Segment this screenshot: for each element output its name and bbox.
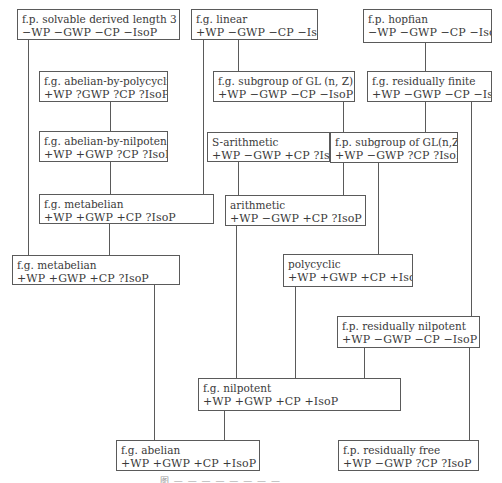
node-fg-nilpotent: f.g. nilpotent+WP +GWP +CP +IsoP [198, 378, 401, 411]
node-properties: +WP −GWP −CP −IsoP [218, 88, 354, 102]
node-fp-hopfian: f.p. hopfian−WP −GWP −CP −IsoP [363, 9, 492, 43]
node-properties: +WP −GWP −CP −IsoP [342, 333, 479, 347]
node-properties: +WP +GWP +CP +IsoP [121, 457, 259, 471]
edge-fg-residually-finite-to-fp-subgroup-gl [425, 102, 426, 132]
node-name: f.g. metabelian [17, 258, 179, 272]
node-s-arithmetic: S-arithmetic+WP −GWP +CP ?IsoP [207, 132, 330, 162]
edge-fp-solvable-dl3-to-fg-metabelian-2 [28, 40, 29, 255]
node-name: f.g. subgroup of GL (n, Z) [218, 74, 354, 88]
node-arithmetic: arithmetic+WP −GWP +CP ?IsoP [225, 195, 366, 226]
node-name: f.p. residually free [343, 443, 478, 457]
edge-fp-residually-nilpotent-to-fg-nilpotent [364, 348, 365, 378]
node-name: f.g. linear [196, 12, 317, 26]
edge-fp-subgroup-gl-to-arithmetic [343, 163, 344, 195]
node-name: f.g. residually finite [372, 74, 491, 88]
edge-fg-abelian-by-polycyclic-to-fg-abelian-by-nilpoten [110, 102, 111, 131]
node-properties: +WP −GWP −CP −IsoP [196, 26, 317, 40]
node-name: f.p. solvable derived length 3 [22, 12, 179, 26]
node-fg-metabelian-2: f.g. metabelian+WP +GWP +CP ?IsoP [12, 255, 180, 285]
node-name: polycyclic [288, 257, 412, 271]
group-properties-diagram: f.p. solvable derived length 3−WP −GWP −… [0, 0, 502, 483]
node-fp-residually-free: f.p. residually free+WP −GWP ?CP ?IsoP [338, 440, 479, 471]
node-properties: +WP +GWP +CP ?IsoP [17, 272, 179, 285]
edge-polycyclic-to-fg-nilpotent [295, 287, 296, 378]
edge-arithmetic-to-fg-nilpotent [236, 226, 237, 378]
edge-fg-subgroup-gl-to-fp-subgroup-gl [343, 102, 344, 132]
node-name: f.g. abelian-by-polycyclic [44, 74, 167, 88]
node-properties: +WP +GWP +CP ?IsoP [44, 211, 213, 224]
node-name: f.g. metabelian [44, 197, 213, 211]
node-properties: +WP −GWP +CP ?IsoP [230, 212, 365, 226]
node-polycyclic: polycyclic+WP +GWP +CP +IsoP [283, 254, 413, 287]
node-name: f.g. abelian [121, 443, 259, 457]
edge-fg-nilpotent-to-fg-abelian [224, 411, 225, 440]
node-properties: +WP −GWP ?CP ?IsoP [343, 457, 478, 471]
edge-fg-linear-to-fg-metabelian-1 [203, 40, 204, 194]
edge-fp-subgroup-gl-to-polycyclic [378, 163, 379, 254]
node-properties: −WP −GWP −CP −IsoP [22, 26, 179, 40]
edge-fg-abelian-by-nilpoten-to-fg-metabelian-1 [110, 162, 111, 194]
node-fg-subgroup-gl: f.g. subgroup of GL (n, Z)+WP −GWP −CP −… [213, 71, 355, 102]
edge-fp-residually-nilpotent-to-fp-residually-free [469, 348, 470, 440]
node-fg-abelian-by-polycyclic: f.g. abelian-by-polycyclic+WP ?GWP ?CP ?… [39, 71, 168, 102]
node-name: f.g. abelian-by-nilpoten [44, 134, 167, 148]
node-fp-subgroup-gl: f.p. subgroup of GL(n,Z)+WP −GWP ?CP ?Is… [330, 132, 458, 163]
node-fg-abelian: f.g. abelian+WP +GWP +CP +IsoP [116, 440, 260, 471]
node-name: f.p. hopfian [368, 12, 491, 26]
node-fp-solvable-dl3: f.p. solvable derived length 3−WP −GWP −… [17, 9, 180, 40]
node-fg-abelian-by-nilpoten: f.g. abelian-by-nilpoten+WP +GWP ?CP ?Is… [39, 131, 168, 162]
figure-caption: 图 — — — — — — — — [160, 474, 360, 483]
node-name: f.p. residually nilpotent [342, 319, 479, 333]
edge-fg-metabelian-1-to-fg-metabelian-2 [109, 224, 110, 255]
node-fg-metabelian-1: f.g. metabelian+WP +GWP +CP ?IsoP [39, 194, 214, 224]
edge-fg-linear-to-fg-subgroup-gl [238, 40, 239, 71]
node-properties: +WP +GWP +CP +IsoP [288, 271, 412, 285]
node-name: arithmetic [230, 198, 365, 212]
node-properties: +WP −GWP ?CP ?IsoP [335, 149, 457, 163]
edge-fg-residually-finite-to-fp-residually-nilpotent [471, 102, 472, 316]
node-fg-linear: f.g. linear+WP −GWP −CP −IsoP [191, 9, 318, 40]
edge-fg-metabelian-2-to-fg-abelian [154, 285, 155, 440]
node-properties: +WP −GWP −CP −IsoP [372, 88, 491, 102]
node-properties: −WP −GWP −CP −IsoP [368, 26, 491, 40]
node-properties: +WP +GWP ?CP ?IsoP [44, 148, 167, 162]
node-properties: +WP ?GWP ?CP ?IsoP [44, 88, 167, 102]
node-name: f.g. nilpotent [203, 381, 400, 395]
node-name: S-arithmetic [212, 135, 329, 149]
edge-s-arithmetic-to-arithmetic [238, 162, 239, 195]
node-name: f.p. subgroup of GL(n,Z) [335, 135, 457, 149]
node-fg-residually-finite: f.g. residually finite+WP −GWP −CP −IsoP [367, 71, 492, 102]
node-properties: +WP −GWP +CP ?IsoP [212, 149, 329, 162]
edge-fp-hopfian-to-fg-residually-finite [425, 43, 426, 71]
node-fp-residually-nilpotent: f.p. residually nilpotent+WP −GWP −CP −I… [337, 316, 480, 348]
node-properties: +WP +GWP +CP +IsoP [203, 395, 400, 409]
